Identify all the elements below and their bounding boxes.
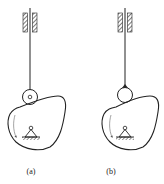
pivot-b	[116, 126, 134, 140]
caption-b: (b)	[96, 167, 126, 176]
rotation-arrow-a	[14, 115, 16, 137]
cam-profile-b	[102, 96, 159, 150]
cam-profile-a	[8, 96, 66, 150]
rotation-arrow-b	[110, 115, 112, 137]
ground-hatch-b	[116, 137, 134, 140]
pivot-support-a	[25, 130, 37, 138]
pivot-support-b	[119, 130, 131, 138]
ground-hatch-a	[22, 137, 40, 140]
guide-block-right	[128, 13, 133, 32]
panel-a	[8, 8, 66, 150]
caption-a: (a)	[16, 167, 46, 176]
roller-pin-a	[28, 95, 32, 99]
pivot-a	[22, 126, 40, 140]
panel-b	[102, 8, 159, 150]
guide-block-left	[23, 13, 28, 32]
guide-block-left	[118, 13, 123, 32]
guide-block-right	[33, 13, 38, 32]
cam-mechanisms-diagram	[0, 0, 164, 184]
